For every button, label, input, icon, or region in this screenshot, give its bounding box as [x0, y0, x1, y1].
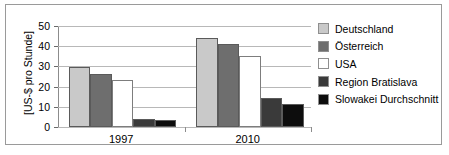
bar: [155, 120, 177, 127]
legend-swatch-icon: [318, 76, 329, 87]
legend-item[interactable]: Österreich: [318, 38, 438, 56]
chart-figure: [US-$ pro Stunde] DeutschlandÖsterreichU…: [0, 0, 449, 155]
y-axis-tick-label: 40: [24, 40, 50, 52]
bar: [282, 104, 304, 127]
legend-label: Region Bratislava: [335, 76, 417, 88]
legend-item[interactable]: Slowakei Durchschnitt: [318, 90, 438, 108]
legend-swatch-icon: [318, 94, 329, 105]
x-axis-tick: [185, 127, 186, 132]
gridline: [58, 66, 311, 67]
bar: [112, 80, 134, 127]
gridline: [58, 26, 311, 27]
gridline: [58, 46, 311, 47]
y-axis-tick: [54, 66, 58, 67]
bar: [133, 119, 155, 127]
bar: [90, 74, 112, 127]
y-axis-tick-label: 10: [24, 101, 50, 113]
y-axis-tick: [54, 107, 58, 108]
y-axis-tick: [54, 26, 58, 27]
legend-label: Österreich: [335, 40, 383, 52]
legend-item[interactable]: Deutschland: [318, 20, 438, 38]
legend-label: Deutschland: [335, 23, 393, 35]
y-axis-tick-label: 30: [24, 60, 50, 72]
legend-label: USA: [335, 58, 357, 70]
x-axis-tick: [311, 127, 312, 132]
legend-label: Slowakei Durchschnitt: [335, 93, 438, 105]
legend-item[interactable]: USA: [318, 55, 438, 73]
bar: [69, 67, 91, 127]
bar: [239, 56, 261, 127]
y-axis-tick: [54, 127, 58, 128]
plot-area: [58, 26, 311, 127]
bar: [196, 38, 218, 127]
legend-swatch-icon: [318, 23, 329, 34]
legend-item[interactable]: Region Bratislava: [318, 73, 438, 91]
chart-frame: [US-$ pro Stunde] DeutschlandÖsterreichU…: [5, 4, 442, 145]
y-axis-tick: [54, 46, 58, 47]
bar: [261, 98, 283, 127]
legend-swatch-icon: [318, 41, 329, 52]
y-axis-tick-label: 0: [24, 121, 50, 133]
y-axis-tick-label: 20: [24, 81, 50, 93]
y-axis-tick-label: 50: [24, 20, 50, 32]
x-axis-category-label: 2010: [185, 133, 312, 145]
bar: [218, 44, 240, 127]
legend-swatch-icon: [318, 58, 329, 69]
x-axis-category-label: 1997: [58, 133, 185, 145]
y-axis-tick: [54, 87, 58, 88]
chart-legend: DeutschlandÖsterreichUSARegion Bratislav…: [318, 20, 438, 108]
